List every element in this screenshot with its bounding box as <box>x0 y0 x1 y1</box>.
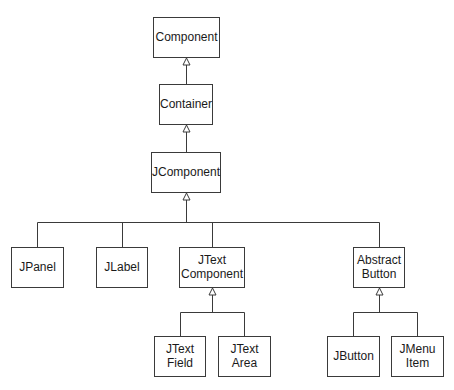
edge-component <box>183 58 190 84</box>
inheritance-arrow-icon <box>376 288 383 295</box>
class-node-jmenuitem: JMenuItem <box>392 337 444 377</box>
class-name-label: Item <box>406 356 429 370</box>
class-name-label: JText <box>198 253 227 267</box>
class-name-label: Button <box>362 267 397 281</box>
class-node-jtextfield: JTextField <box>155 337 206 377</box>
class-name-label: Area <box>232 356 258 370</box>
class-node-jlabel: JLabel <box>97 248 148 288</box>
class-node-component: Component <box>154 18 220 58</box>
class-name-label: JButton <box>333 349 374 363</box>
inheritance-arrow-icon <box>183 58 190 65</box>
class-node-jcomponent: JComponent <box>152 153 221 193</box>
edge-jtextcomponent <box>181 288 245 336</box>
class-name-label: JMenu <box>399 342 435 356</box>
class-name-label: Field <box>167 356 193 370</box>
class-node-jbutton: JButton <box>328 337 380 377</box>
class-name-label: Component <box>181 267 244 281</box>
class-name-label: JComponent <box>152 165 221 179</box>
class-name-label: Component <box>155 30 218 44</box>
edge-jcomponent <box>38 193 380 247</box>
inheritance-arrow-icon <box>183 193 190 200</box>
inheritance-edges <box>38 58 418 336</box>
class-name-label: JText <box>230 342 259 356</box>
class-name-label: JPanel <box>19 260 56 274</box>
class-name-label: JLabel <box>104 260 139 274</box>
class-node-container: Container <box>160 85 213 125</box>
inheritance-arrow-icon <box>209 288 216 295</box>
class-node-jtextarea: JTextArea <box>219 337 271 377</box>
class-nodes: ComponentContainerJComponentJPanelJLabel… <box>12 18 444 377</box>
inheritance-arrow-icon <box>183 125 190 132</box>
class-hierarchy-diagram: ComponentContainerJComponentJPanelJLabel… <box>0 0 454 390</box>
class-name-label: JText <box>166 342 195 356</box>
class-name-label: Container <box>160 97 212 111</box>
edge-container <box>183 125 190 152</box>
class-name-label: Abstract <box>357 253 402 267</box>
class-node-abstractbutton: AbstractButton <box>354 248 405 288</box>
class-node-jpanel: JPanel <box>12 248 64 288</box>
edge-abstractbutton <box>354 288 418 336</box>
class-node-jtextcomponent: JTextComponent <box>180 248 245 288</box>
